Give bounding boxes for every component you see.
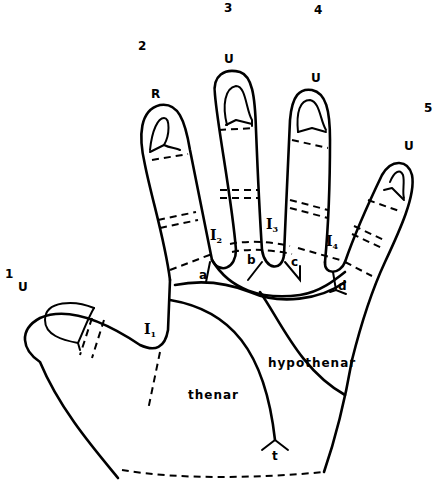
flexion-creases [80,128,402,477]
fingertip-patterns [45,86,404,350]
region-labels: thenar hypothenar [188,356,356,402]
pattern-label-2: R [151,87,160,101]
triradius-b: b [247,253,256,267]
interdigital-label-1: I1 [144,321,156,339]
pattern-label-5: U [404,139,414,153]
digit-number-2: 2 [138,39,146,53]
triradius-t: t [272,449,278,463]
interdigital-label-2: I2 [210,227,222,245]
pattern-label-1: U [18,280,28,294]
triradius-a: a [199,268,207,282]
pattern-label-4: U [311,71,321,85]
hand-diagram: 1 2 3 4 5 U R U U U I1 I2 I3 I4 a b c d … [0,0,433,483]
hand-outline [25,71,413,478]
interdigital-labels: I1 I2 I3 I4 [144,216,339,339]
palmar-lines [170,260,346,450]
digit-number-3: 3 [224,1,232,15]
thenar-label: thenar [188,388,239,402]
pattern-label-3: U [224,52,234,66]
digit-number-4: 4 [314,3,322,17]
pattern-labels: U R U U U [18,52,414,294]
triradius-c: c [291,255,298,269]
hypothenar-label: hypothenar [268,356,356,370]
digit-number-1: 1 [5,267,13,281]
interdigital-label-4: I4 [326,233,339,251]
interdigital-label-3: I3 [266,216,279,234]
digit-number-5: 5 [424,101,432,115]
triradius-d: d [338,279,347,293]
